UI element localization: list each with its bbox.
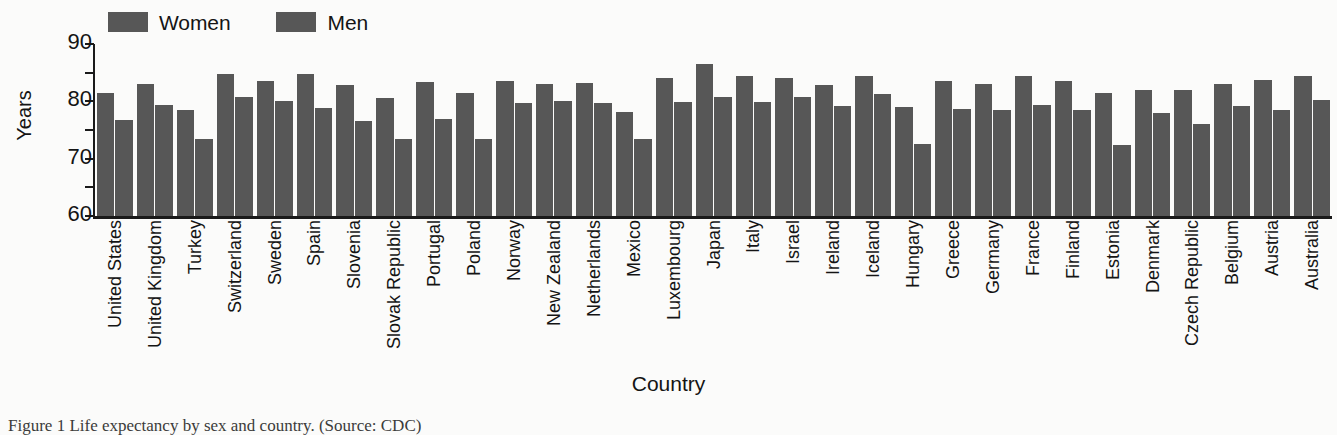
bar-women bbox=[536, 84, 553, 216]
x-tick-label-cell: Czech Republic bbox=[1172, 220, 1212, 360]
bar-group bbox=[295, 44, 335, 216]
x-tick-label: Israel bbox=[784, 220, 802, 264]
bar-group bbox=[1133, 44, 1173, 216]
x-tick-label-cell: Switzerland bbox=[215, 220, 255, 360]
x-tick-label-cell: Austria bbox=[1252, 220, 1292, 360]
bar-men bbox=[355, 121, 372, 216]
bar-group bbox=[414, 44, 454, 216]
bar-women bbox=[1015, 76, 1032, 216]
x-tick-label: France bbox=[1024, 220, 1042, 276]
x-tick-label: Netherlands bbox=[585, 220, 603, 317]
bar-women bbox=[1095, 93, 1112, 216]
x-tick-label-cell: Hungary bbox=[893, 220, 933, 360]
y-tick-label-60: 60 bbox=[46, 203, 92, 225]
bar-men bbox=[834, 106, 851, 216]
x-tick-label: United Kingdom bbox=[146, 220, 164, 348]
x-tick-label-cell: New Zealand bbox=[534, 220, 574, 360]
legend-swatch-icon-women bbox=[108, 12, 148, 32]
bar-women bbox=[975, 84, 992, 216]
bar-group bbox=[215, 44, 255, 216]
bar-group bbox=[853, 44, 893, 216]
x-tick-label: Italy bbox=[744, 220, 762, 253]
bar-group bbox=[135, 44, 175, 216]
x-tick-label: Finland bbox=[1064, 220, 1082, 279]
x-tick-label: Poland bbox=[465, 220, 483, 276]
bar-men bbox=[874, 94, 891, 216]
bar-men bbox=[395, 139, 412, 216]
bar-group bbox=[95, 44, 135, 216]
bar-men bbox=[1233, 106, 1250, 216]
bar-women bbox=[1135, 90, 1152, 216]
y-tick-label-80: 80 bbox=[46, 88, 92, 110]
x-tick-label: Australia bbox=[1303, 220, 1321, 290]
x-tick-label: Estonia bbox=[1104, 220, 1122, 280]
bar-group bbox=[973, 44, 1013, 216]
legend-entry-women: Women bbox=[108, 12, 230, 33]
bar-men bbox=[1153, 113, 1170, 216]
x-tick-label: Mexico bbox=[625, 220, 643, 277]
bar-women bbox=[177, 110, 194, 216]
x-tick-label-cell: Belgium bbox=[1212, 220, 1252, 360]
x-axis-tick-labels: United StatesUnited KingdomTurkeySwitzer… bbox=[95, 220, 1332, 360]
bar-men bbox=[993, 110, 1010, 216]
bar-group bbox=[773, 44, 813, 216]
bar-men bbox=[1113, 145, 1130, 216]
x-tick-label-cell: Australia bbox=[1292, 220, 1332, 360]
bar-group bbox=[1093, 44, 1133, 216]
x-tick-label-cell: Denmark bbox=[1133, 220, 1173, 360]
x-tick-label: Ireland bbox=[824, 220, 842, 275]
bar-men bbox=[914, 144, 931, 216]
x-tick-label: United States bbox=[106, 220, 124, 328]
bar-women bbox=[376, 98, 393, 216]
x-tick-label-cell: Estonia bbox=[1093, 220, 1133, 360]
x-tick-label: Portugal bbox=[425, 220, 443, 287]
x-tick-label-cell: Poland bbox=[454, 220, 494, 360]
x-tick-label: Slovak Republic bbox=[385, 220, 403, 349]
x-tick-label: Norway bbox=[505, 220, 523, 281]
bar-women bbox=[775, 78, 792, 216]
bar-women bbox=[1174, 90, 1191, 216]
bar-women bbox=[257, 81, 274, 216]
x-tick-label-cell: Slovak Republic bbox=[374, 220, 414, 360]
x-tick-label: Slovenia bbox=[345, 220, 363, 289]
x-tick-label: Germany bbox=[984, 220, 1002, 294]
bar-men bbox=[515, 103, 532, 216]
bar-men bbox=[435, 119, 452, 216]
bar-women bbox=[576, 83, 593, 216]
bar-group bbox=[494, 44, 534, 216]
bar-women bbox=[137, 84, 154, 216]
bar-men bbox=[794, 97, 811, 216]
bar-groups bbox=[95, 44, 1332, 216]
bar-women bbox=[456, 93, 473, 216]
bar-group bbox=[694, 44, 734, 216]
bar-group bbox=[893, 44, 933, 216]
x-tick-label-cell: Italy bbox=[734, 220, 774, 360]
bar-group bbox=[614, 44, 654, 216]
x-tick-label-cell: Israel bbox=[773, 220, 813, 360]
bar-women bbox=[496, 81, 513, 216]
x-tick-label: Switzerland bbox=[226, 220, 244, 313]
bar-women bbox=[1254, 80, 1271, 216]
x-tick-label: Turkey bbox=[186, 220, 204, 274]
bar-group bbox=[1212, 44, 1252, 216]
x-tick-label-cell: France bbox=[1013, 220, 1053, 360]
bar-women bbox=[656, 78, 673, 216]
bar-women bbox=[736, 76, 753, 216]
bar-group bbox=[1053, 44, 1093, 216]
bar-group bbox=[334, 44, 374, 216]
x-tick-label: Spain bbox=[305, 220, 323, 266]
bar-women bbox=[97, 93, 114, 216]
x-tick-label-cell: Netherlands bbox=[574, 220, 614, 360]
x-axis-title: Country bbox=[0, 372, 1337, 396]
bar-men bbox=[475, 139, 492, 216]
bar-group bbox=[1172, 44, 1212, 216]
y-axis-title: Years bbox=[13, 66, 36, 166]
x-tick-label-cell: Ireland bbox=[813, 220, 853, 360]
x-tick-label-cell: Turkey bbox=[175, 220, 215, 360]
x-tick-label: New Zealand bbox=[545, 220, 563, 326]
bar-men bbox=[594, 103, 611, 216]
x-tick-label-cell: Iceland bbox=[853, 220, 893, 360]
bar-men bbox=[195, 139, 212, 216]
bar-group bbox=[813, 44, 853, 216]
bar-men bbox=[235, 97, 252, 216]
